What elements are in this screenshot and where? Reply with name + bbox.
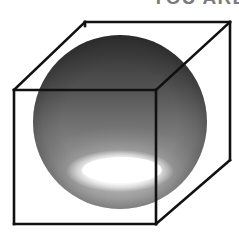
sphere-lighting	[34, 126, 206, 226]
sphere-group	[33, 35, 207, 226]
sphere-in-cube-illustration	[0, 0, 239, 234]
figure-container: YOU ARE	[0, 0, 239, 234]
specular-highlight-core	[82, 157, 162, 183]
